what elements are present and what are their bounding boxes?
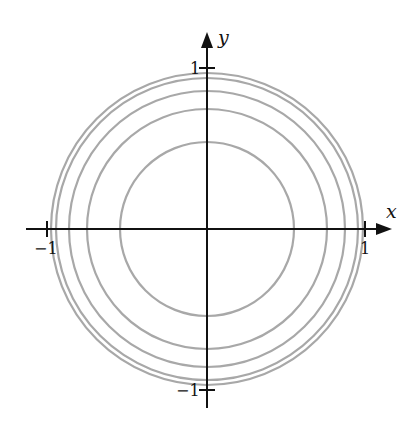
y-axis	[199, 44, 215, 408]
x-tick-label-neg: −1	[34, 239, 58, 258]
x-tick-label-pos: 1	[360, 239, 370, 258]
level-curves-diagram: x y −1 1 1 −1	[0, 0, 418, 426]
y-tick-label-pos: 1	[190, 59, 200, 78]
x-axis-label: x	[386, 200, 397, 222]
y-axis-arrow-icon	[201, 32, 213, 48]
y-tick-label-neg: −1	[176, 381, 200, 400]
y-axis-label: y	[217, 26, 229, 48]
x-axis-arrow-icon	[376, 223, 392, 235]
